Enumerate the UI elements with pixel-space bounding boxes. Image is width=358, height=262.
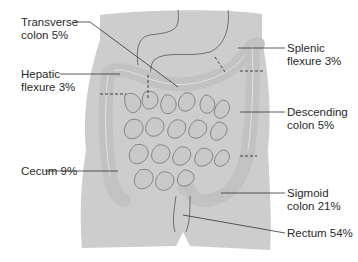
- label-transverse-colon: Transverse colon 5%: [21, 16, 78, 41]
- label-hepatic-flexure: Hepatic flexure 3%: [21, 68, 75, 93]
- label-descending-colon: Descending colon 5%: [287, 106, 348, 131]
- label-sigmoid-colon: Sigmoid colon 21%: [287, 187, 341, 212]
- label-splenic-flexure: Splenic flexure 3%: [287, 42, 341, 67]
- label-rectum: Rectum 54%: [287, 227, 353, 240]
- label-cecum: Cecum 9%: [21, 165, 77, 178]
- colon-diagram: Transverse colon 5% Hepatic flexure 3% C…: [0, 0, 358, 262]
